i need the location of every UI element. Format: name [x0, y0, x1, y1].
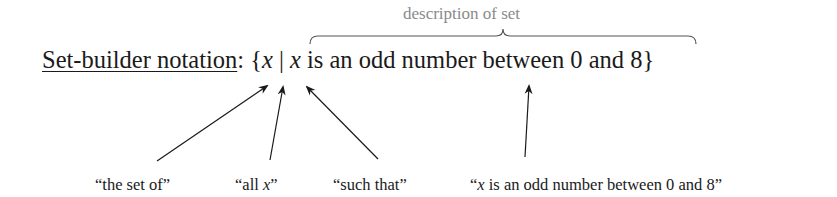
arrow-all-x [270, 87, 283, 160]
arrow-the-set-of [157, 86, 267, 161]
label-all-x: “all x” [235, 175, 278, 195]
label-such-that: “such that” [333, 175, 407, 195]
label-condition: “x is an odd number between 0 and 8” [470, 175, 722, 195]
label-the-set-of: “the set of” [95, 175, 170, 195]
diagram-graphics [0, 0, 837, 197]
arrow-such-that [307, 87, 378, 159]
arrow-condition [525, 86, 529, 157]
description-brace [310, 29, 696, 44]
